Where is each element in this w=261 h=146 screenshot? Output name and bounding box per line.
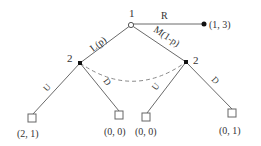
leaf-node-2	[115, 111, 123, 119]
payoff-3: (0, 0)	[135, 126, 157, 138]
action-R-label: R	[161, 10, 168, 21]
edge-right-D	[186, 62, 232, 109]
payoff-4: (0, 1)	[219, 125, 241, 137]
action-right-U-label: U	[150, 81, 162, 93]
action-L-label: L(p)	[88, 34, 109, 54]
payoff-R: (1, 3)	[209, 19, 231, 31]
information-set-curve	[80, 62, 186, 81]
payoff-2: (0, 0)	[104, 126, 126, 138]
player2-left-node	[78, 61, 82, 65]
player2-left-label: 2	[67, 52, 73, 64]
leaf-node-4	[228, 109, 236, 117]
action-M-label: M(1-p)	[151, 24, 182, 50]
edge-left-D	[80, 63, 119, 111]
game-tree-diagram: 1 R (1, 3) L(p) M(1-p) 2 2 U D U D (2, 1…	[0, 0, 261, 146]
payoff-1: (2, 1)	[17, 128, 39, 140]
player2-right-node	[184, 60, 188, 64]
terminal-node-R	[202, 22, 207, 27]
action-left-D-label: D	[101, 76, 113, 88]
edge-left-U	[33, 63, 80, 114]
root-player-label: 1	[129, 7, 135, 19]
player2-right-label: 2	[193, 54, 199, 66]
action-right-D-label: D	[210, 74, 222, 86]
leaf-node-3	[142, 113, 150, 121]
action-left-U-label: U	[41, 81, 53, 93]
leaf-node-1	[28, 114, 36, 122]
root-node	[128, 22, 133, 27]
